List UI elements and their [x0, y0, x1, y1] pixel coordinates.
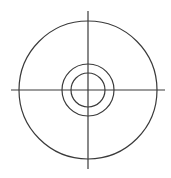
diagram-canvas [0, 0, 171, 178]
crosshair-diagram [0, 0, 171, 178]
